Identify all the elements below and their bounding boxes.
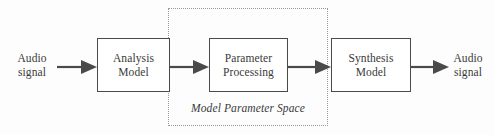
output-label-line2: signal: [444, 65, 492, 79]
block-parameter-processing[interactable]: Parameter Processing: [209, 38, 288, 92]
input-label-line1: Audio: [8, 51, 56, 65]
block-parameter-processing-line2: Processing: [223, 65, 274, 79]
output-audio-signal-label: Audio signal: [444, 51, 492, 79]
block-synthesis-model-line2: Model: [356, 65, 387, 79]
block-analysis-model[interactable]: Analysis Model: [97, 38, 170, 92]
arrow-analysis-to-parameter-icon: [170, 59, 209, 75]
model-parameter-space-caption: Model Parameter Space: [168, 101, 328, 115]
input-audio-signal-label: Audio signal: [8, 51, 56, 79]
block-synthesis-model-line1: Synthesis: [349, 51, 394, 65]
block-analysis-model-line2: Model: [118, 65, 149, 79]
block-parameter-processing-line1: Parameter: [225, 51, 273, 65]
block-synthesis-model[interactable]: Synthesis Model: [331, 38, 411, 92]
block-analysis-model-line1: Analysis: [113, 51, 154, 65]
input-label-line2: signal: [8, 65, 56, 79]
arrow-input-to-analysis-icon: [57, 59, 97, 75]
arrow-parameter-to-synthesis-icon: [288, 59, 331, 75]
diagram-canvas: Model Parameter Space Audio signal Analy…: [0, 0, 495, 135]
output-label-line1: Audio: [444, 51, 492, 65]
